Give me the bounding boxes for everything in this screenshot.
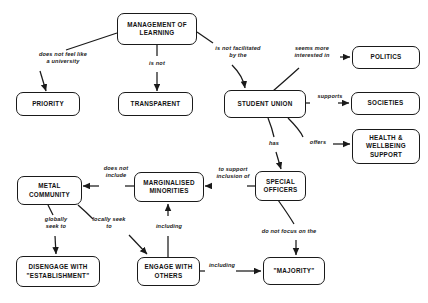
edge-label-supports: supports xyxy=(310,93,350,100)
node-majority-label: "MAJORITY" xyxy=(273,267,314,276)
edge-label-is-not: is not xyxy=(132,60,182,67)
edge-metal-to-disengage-upper xyxy=(48,205,53,215)
edge-management-to-union-lower xyxy=(232,65,245,88)
edge-label-to-support-inclusion-of: to support inclusion of xyxy=(208,166,258,181)
node-health-wellbeing-support-label: HEALTH & WELLBEING SUPPORT xyxy=(366,134,406,160)
edge-union-to-politics-lower xyxy=(273,68,299,91)
edge-label-has: has xyxy=(262,140,286,147)
node-priority[interactable]: PRIORITY xyxy=(16,92,80,116)
node-engage-with-others[interactable]: ENGAGE WITH OTHERS xyxy=(137,257,200,286)
node-societies-label: SOCIETIES xyxy=(368,99,404,108)
edge-label-does-not-include: does not include xyxy=(96,165,136,180)
edge-label-including-majority: including xyxy=(204,262,240,269)
node-disengage-with-establishment-label: DISENGAGE WITH "ESTABLISHMENT" xyxy=(27,263,90,280)
edge-label-seems-more-interested-in: seems more interested in xyxy=(281,45,343,60)
node-majority[interactable]: "MAJORITY" xyxy=(263,257,325,285)
node-priority-label: PRIORITY xyxy=(32,100,64,109)
node-student-union[interactable]: STUDENT UNION xyxy=(224,90,306,118)
node-transparent[interactable]: TRANSPARENT xyxy=(118,92,193,116)
node-student-union-label: STUDENT UNION xyxy=(237,100,292,109)
node-metal-community-label: METAL COMMUNITY xyxy=(29,182,70,199)
edge-label-is-not-facilitated-by-the: is not facilitated by the xyxy=(206,45,270,60)
edge-label-do-not-focus-on-the: do not focus on the xyxy=(245,228,333,235)
node-disengage-with-establishment[interactable]: DISENGAGE WITH "ESTABLISHMENT" xyxy=(16,256,100,287)
node-transparent-label: TRANSPARENT xyxy=(131,100,181,109)
edge-label-including-minorities: including xyxy=(148,223,190,230)
node-management-of-learning-label: MANAGEMENT OF LEARNING xyxy=(127,21,187,38)
edge-special-to-majority-upper xyxy=(278,200,294,224)
node-metal-community[interactable]: METAL COMMUNITY xyxy=(17,176,82,205)
node-special-officers[interactable]: SPECIAL OFFICERS xyxy=(255,171,306,201)
edge-union-to-health-left xyxy=(288,118,303,137)
edge-union-to-special-upper xyxy=(268,118,274,137)
concept-map: MANAGEMENT OF LEARNING PRIORITY TRANSPAR… xyxy=(0,0,428,303)
node-management-of-learning[interactable]: MANAGEMENT OF LEARNING xyxy=(117,13,197,45)
edge-management-to-union-upper xyxy=(197,32,213,43)
node-engage-with-others-label: ENGAGE WITH OTHERS xyxy=(145,263,193,280)
edge-management-to-priority-upper xyxy=(66,33,117,50)
node-marginalised-minorities[interactable]: MARGINALISED MINORITIES xyxy=(134,172,204,202)
node-marginalised-minorities-label: MARGINALISED MINORITIES xyxy=(143,179,195,196)
node-special-officers-label: SPECIAL OFFICERS xyxy=(264,178,298,195)
edge-union-to-special-lower xyxy=(276,152,281,169)
edge-management-to-priority-lower xyxy=(40,71,46,91)
edge-label-globally-seek-to: globally seek to xyxy=(35,216,77,231)
edge-label-offers: offers xyxy=(303,139,333,146)
edge-label-locally-seek-to: locally seek to xyxy=(86,216,132,231)
edge-metal-to-disengage-lower xyxy=(55,236,56,254)
node-politics[interactable]: POLITICS xyxy=(352,46,420,69)
node-health-wellbeing-support[interactable]: HEALTH & WELLBEING SUPPORT xyxy=(352,129,420,164)
node-politics-label: POLITICS xyxy=(370,53,401,62)
edge-metal-to-engage-lower xyxy=(129,235,147,254)
edge-label-does-not-feel-like-a-university: does not feel like a university xyxy=(18,51,108,66)
node-societies[interactable]: SOCIETIES xyxy=(351,92,420,115)
